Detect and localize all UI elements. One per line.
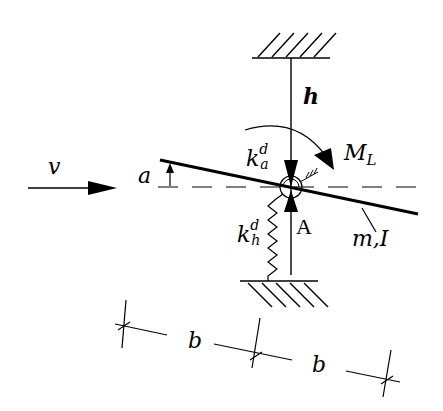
- heave-spring-label: kdh: [237, 217, 260, 248]
- moment-arrow-icon: [314, 148, 334, 170]
- height-label: h: [303, 83, 319, 109]
- top-ground-support: [252, 33, 336, 58]
- moment-label: ML: [343, 140, 377, 169]
- bottom-ground-support: [240, 281, 328, 307]
- angle-label: a: [138, 163, 151, 188]
- heave-spring: [268, 194, 283, 281]
- velocity-label: v: [48, 154, 61, 179]
- pivot-hatch: [300, 168, 318, 182]
- torsion-spring-label: kda: [246, 141, 269, 172]
- heave-arrow-up-icon: [284, 190, 298, 212]
- dimension-line: [115, 300, 400, 397]
- angle-arrow-icon: [166, 163, 174, 173]
- dimension-right-label: b: [312, 352, 326, 377]
- airfoil-diagram: v a h ML kda kdh A m,I b b: [0, 0, 443, 411]
- pivot-label: A: [296, 214, 312, 239]
- mass-inertia-label: m,I: [352, 226, 390, 251]
- dimension-left-label: b: [188, 328, 202, 353]
- torsion-arrow-down-icon: [284, 160, 298, 187]
- velocity-arrow-icon: [88, 181, 117, 195]
